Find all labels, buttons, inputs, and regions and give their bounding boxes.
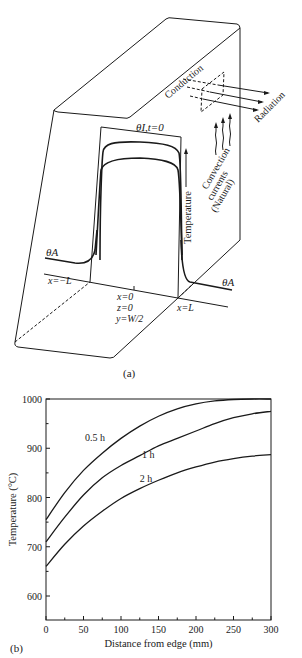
radiation-label: Radiation bbox=[252, 89, 287, 124]
convection-arrowhead-1 bbox=[214, 122, 218, 128]
temperature-chart: 6007008009001000050100150200250300Distan… bbox=[7, 394, 279, 650]
convection-arrow-1 bbox=[216, 127, 217, 155]
figure: θI,t=0 θA θA x=−L x=0 z=0 y=W/2 x=L Temp… bbox=[0, 0, 302, 658]
temp-profile-2 bbox=[96, 158, 182, 255]
conduction-arrow-2 bbox=[187, 87, 210, 92]
series-label: 1 h bbox=[142, 449, 155, 460]
slab-bottom-face bbox=[15, 298, 178, 358]
hidden-edge bbox=[15, 282, 90, 342]
slab-top-face bbox=[54, 18, 240, 119]
x-plus-L-label: x=L bbox=[176, 302, 194, 313]
radiation-arrow-2 bbox=[210, 92, 262, 102]
radiation-arrowhead-2 bbox=[258, 100, 264, 104]
series-line-2 bbox=[46, 455, 271, 567]
series-label: 2 h bbox=[140, 473, 153, 484]
y-tick-label: 700 bbox=[27, 542, 42, 553]
x-tick-label: 150 bbox=[151, 624, 166, 635]
y-tick-label: 900 bbox=[27, 443, 42, 454]
radiation-arrowhead-1 bbox=[264, 91, 270, 95]
temperature-arrowhead bbox=[184, 148, 188, 154]
x-axis-line bbox=[44, 274, 228, 307]
plot-frame bbox=[46, 399, 271, 620]
y-axis-label: Temperature (°C) bbox=[7, 472, 19, 546]
x-tick-label: 50 bbox=[79, 624, 89, 635]
temp-profile-1 bbox=[100, 142, 182, 260]
convection-arrowhead-2 bbox=[221, 117, 225, 123]
y-tick-label: 600 bbox=[27, 591, 42, 602]
series-line-1 bbox=[46, 411, 271, 542]
x-axis-label: Distance from edge (mm) bbox=[104, 638, 213, 650]
conduction-arrow-3 bbox=[190, 96, 203, 99]
initial-temp-label: θI,t=0 bbox=[136, 121, 164, 133]
ambient-right-label: θA bbox=[222, 276, 234, 288]
z-zero-label: z=0 bbox=[116, 302, 133, 313]
x-zero-label: x=0 bbox=[116, 291, 133, 302]
panel-b-caption: (b) bbox=[10, 642, 23, 655]
slab-front-left-edge bbox=[15, 110, 54, 342]
y-half-label: y=W/2 bbox=[115, 313, 143, 324]
x-minus-L-label: x=−L bbox=[47, 275, 72, 286]
x-tick-label: 0 bbox=[44, 624, 49, 635]
x-tick-label: 200 bbox=[189, 624, 204, 635]
temperature-axis-label: Temperature bbox=[182, 191, 193, 244]
y-tick-label: 1000 bbox=[22, 394, 42, 405]
panel-a-caption: (a) bbox=[123, 367, 136, 380]
radiation-arrow-1 bbox=[218, 85, 268, 93]
x-tick-label: 100 bbox=[114, 624, 129, 635]
y-tick-label: 800 bbox=[27, 493, 42, 504]
series-label: 0.5 h bbox=[85, 432, 105, 443]
ambient-left-label: θA bbox=[46, 246, 58, 258]
convection-arrow-3 bbox=[230, 118, 231, 146]
x-tick-label: 300 bbox=[264, 624, 279, 635]
x-tick-label: 250 bbox=[226, 624, 241, 635]
convection-arrowhead-3 bbox=[228, 113, 232, 119]
